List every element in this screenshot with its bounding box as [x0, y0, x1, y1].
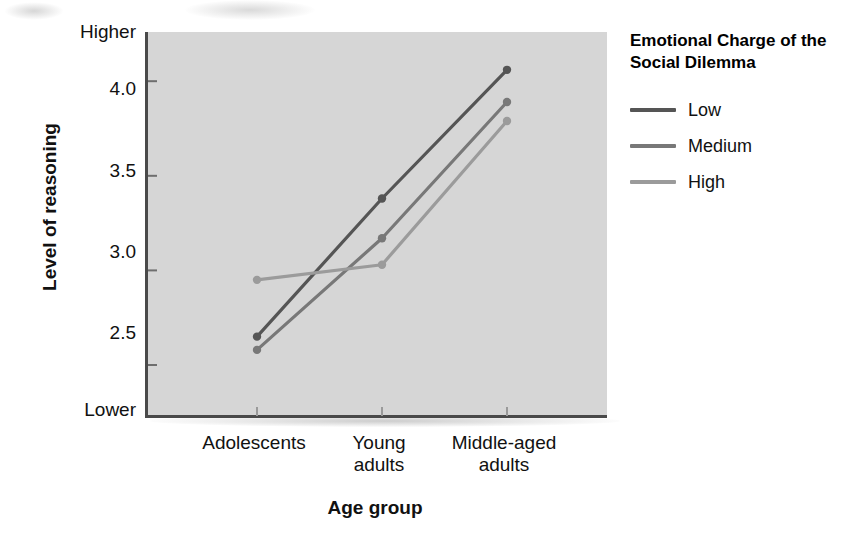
data-point-marker — [503, 117, 511, 125]
y-tick-label: Lower — [84, 400, 136, 419]
legend-item-label: High — [688, 172, 725, 193]
y-tick-label: 4.0 — [110, 79, 136, 98]
legend-title: Emotional Charge of the Social Dilemma — [630, 30, 858, 74]
legend-swatch-icon — [630, 108, 676, 112]
y-tick-label: 2.5 — [110, 323, 136, 342]
data-point-marker — [378, 234, 386, 242]
y-tick-label: Higher — [80, 22, 136, 41]
legend: Emotional Charge of the Social Dilemma L… — [630, 30, 858, 200]
series-line-medium — [257, 102, 507, 350]
plot-area — [145, 32, 607, 418]
legend-item-label: Medium — [688, 136, 752, 157]
scan-artifact — [185, 0, 315, 20]
legend-item-high[interactable]: High — [630, 164, 858, 200]
y-tick-label: 3.0 — [110, 242, 136, 261]
legend-items: LowMediumHigh — [630, 92, 858, 200]
legend-item-label: Low — [688, 100, 721, 121]
legend-swatch-icon — [630, 180, 676, 184]
y-axis-title: Level of reasoning — [39, 77, 61, 337]
y-tick-label: 3.5 — [110, 161, 136, 180]
data-point-marker — [253, 332, 261, 340]
data-point-marker — [253, 276, 261, 284]
x-tick-label-line: adults — [414, 454, 594, 476]
x-axis-title: Age group — [245, 497, 505, 519]
data-point-marker — [378, 194, 386, 202]
legend-swatch-icon — [630, 144, 676, 148]
legend-item-medium[interactable]: Medium — [630, 128, 858, 164]
data-point-marker — [253, 346, 261, 354]
legend-item-low[interactable]: Low — [630, 92, 858, 128]
x-tick-label-line: Middle-aged — [414, 432, 594, 454]
line-chart-figure: Higher4.03.53.02.5Lower Level of reasoni… — [0, 0, 863, 542]
series-line-low — [257, 70, 507, 337]
data-point-marker — [503, 66, 511, 74]
y-axis-tick-labels: Higher4.03.53.02.5Lower — [0, 0, 136, 542]
x-tick-label: Middle-agedadults — [414, 432, 594, 476]
data-point-marker — [378, 261, 386, 269]
data-point-marker — [503, 98, 511, 106]
plot-series-svg — [148, 32, 610, 418]
